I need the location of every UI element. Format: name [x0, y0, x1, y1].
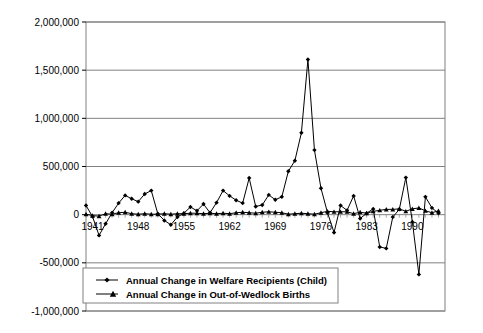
y-axis-tick-label: 2,000,000	[35, 17, 80, 28]
y-axis-tick-label: -1,000,000	[31, 306, 79, 317]
line-chart: 2,000,0001,500,0001,000,000500,0000-500,…	[0, 0, 483, 333]
x-axis-tick-label: 1969	[264, 221, 287, 232]
x-axis-tick-label: 1941	[81, 221, 104, 232]
x-axis-tick-label: 1948	[127, 221, 150, 232]
chart-legend: Annual Change in Welfare Recipients (Chi…	[83, 268, 338, 303]
x-axis-tick-label: 1976	[310, 221, 333, 232]
x-axis-tick-label: 1962	[218, 221, 241, 232]
y-axis-tick-label: 500,000	[43, 161, 80, 172]
x-axis-tick-label: 1983	[356, 221, 379, 232]
y-axis-tick-label: 1,000,000	[35, 113, 80, 124]
legend-item-label: Annual Change in Out-of-Wedlock Births	[126, 289, 310, 300]
y-axis-tick-label: 1,500,000	[35, 65, 80, 76]
y-axis-tick-label: 0	[73, 209, 79, 220]
x-axis-tick-label: 1955	[173, 221, 196, 232]
chart-container: 2,000,0001,500,0001,000,000500,0000-500,…	[0, 0, 483, 333]
legend-item-label: Annual Change in Welfare Recipients (Chi…	[126, 275, 327, 286]
y-axis-tick-label: -500,000	[40, 257, 80, 268]
